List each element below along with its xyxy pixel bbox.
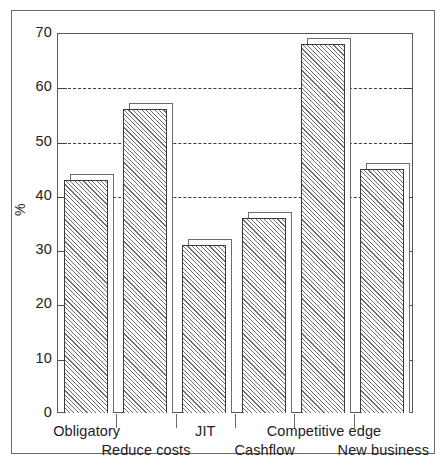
y-tick-label: 50 <box>0 134 52 148</box>
bar-chart: 706050403020100 % ObligatoryJITCompetiti… <box>0 0 446 465</box>
bar[interactable] <box>242 212 292 413</box>
y-axis-title: % <box>12 204 28 216</box>
bar-face <box>360 169 404 413</box>
bar-face <box>182 245 226 413</box>
y-tick-label: 0 <box>0 405 52 419</box>
bar[interactable] <box>64 174 114 413</box>
x-axis-label: New business <box>293 443 446 458</box>
y-tick-label: 40 <box>0 188 52 202</box>
bar[interactable] <box>301 38 351 413</box>
bar[interactable] <box>182 239 232 413</box>
y-axis: 706050403020100 <box>0 0 52 465</box>
bar-face <box>123 109 167 413</box>
y-tick-label: 60 <box>0 79 52 93</box>
y-tick-label: 10 <box>0 351 52 365</box>
bar[interactable] <box>360 163 410 413</box>
y-tick-label: 20 <box>0 296 52 310</box>
bar-face <box>64 180 108 413</box>
bar-face <box>301 44 345 413</box>
y-tick-label: 70 <box>0 25 52 39</box>
x-axis-label: Competitive edge <box>234 424 414 439</box>
y-tick-label: 30 <box>0 242 52 256</box>
bars-layer <box>57 33 413 413</box>
bar[interactable] <box>123 103 173 413</box>
bar-face <box>242 218 286 413</box>
